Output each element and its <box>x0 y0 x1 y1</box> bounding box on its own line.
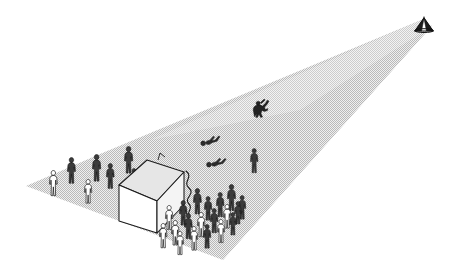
scene-vector-layer <box>0 0 452 280</box>
illustration-canvas: Perspective scene: crowd, cube and dista… <box>0 0 452 280</box>
